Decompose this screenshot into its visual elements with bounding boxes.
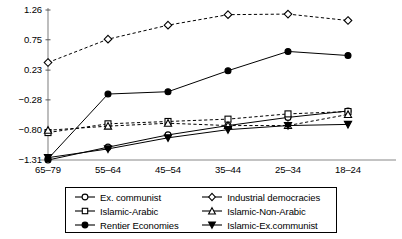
chart-axes: [40, 8, 396, 160]
legend-label: Islamic-Ex.communist: [223, 220, 317, 231]
legend-item-islamic-arabic[interactable]: Islamic-Arabic: [66, 205, 197, 217]
legend-item-ex-communist[interactable]: Ex. communist: [66, 191, 197, 203]
legend-row: Rentier Economies Islamic-Ex.communist: [66, 218, 336, 232]
x-tick-label: 65–79: [18, 164, 78, 175]
line-chart: 1.260.750.23−0.28−0.80−1.31 65–7955–6445…: [0, 0, 402, 182]
chart-screenshot: 1.260.750.23−0.28−0.80−1.31 65–7955–6445…: [0, 0, 402, 239]
legend-marker-square-open-icon: [74, 205, 96, 217]
legend-label: Ex. communist: [96, 192, 161, 203]
legend-item-rentier-economies[interactable]: Rentier Economies: [66, 219, 197, 231]
legend-marker-circle-open-icon: [74, 191, 96, 203]
y-tick-label: 0.75: [0, 34, 42, 45]
series-industrial-democracies: [44, 10, 352, 66]
legend-item-islamic-non-arabic[interactable]: Islamic-Non-Arabic: [197, 205, 336, 217]
series-rentier-economies: [45, 48, 351, 161]
plot-svg: [0, 0, 402, 182]
legend-marker-triangle-open-icon: [201, 205, 223, 217]
legend-item-industrial-democracies[interactable]: Industrial democracies: [197, 191, 336, 203]
x-tick-label: 18–24: [318, 164, 378, 175]
x-tick-label: 45–54: [138, 164, 198, 175]
x-tick-label: 25–34: [258, 164, 318, 175]
legend-label: Islamic-Non-Arabic: [223, 206, 305, 217]
y-tick-label: −0.80: [0, 124, 42, 135]
legend-marker-circle-filled-icon: [74, 219, 96, 231]
series-ex-communist: [45, 108, 351, 163]
legend-row: Ex. communist Industrial democracies: [66, 190, 336, 204]
legend-label: Rentier Economies: [96, 220, 179, 231]
y-tick-label: −0.28: [0, 94, 42, 105]
series-islamic-ex-communist: [44, 121, 351, 161]
legend-label: Islamic-Arabic: [96, 206, 158, 217]
y-tick-label: 1.26: [0, 4, 42, 15]
legend-label: Industrial democracies: [223, 192, 320, 203]
legend-row: Islamic-Arabic Islamic-Non-Arabic: [66, 204, 336, 218]
legend-item-islamic-ex-communist[interactable]: Islamic-Ex.communist: [197, 219, 336, 231]
y-tick-label: 0.23: [0, 64, 42, 75]
legend-marker-diamond-open-icon: [201, 191, 223, 203]
x-tick-label: 35–44: [198, 164, 258, 175]
chart-legend: Ex. communist Industrial democracies Isl…: [65, 187, 337, 233]
legend-marker-triangle-down-filled-icon: [201, 219, 223, 231]
x-tick-label: 55–64: [78, 164, 138, 175]
